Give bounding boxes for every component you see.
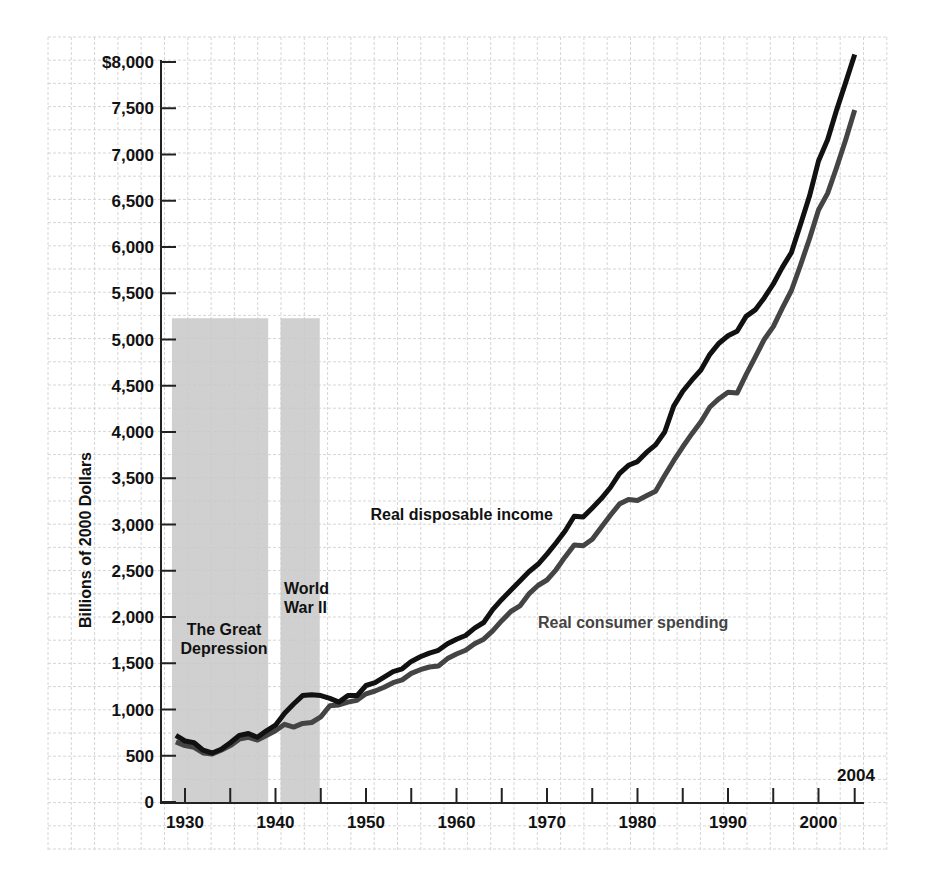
great-depression-band — [172, 318, 268, 802]
data-lines — [176, 55, 855, 754]
x-tick-label: 1980 — [619, 813, 657, 832]
world-war-ii-label: War II — [284, 599, 327, 616]
great-depression-label: Depression — [180, 640, 267, 657]
y-tick-label: 1,000 — [111, 701, 154, 720]
y-tick-label: 1,500 — [111, 654, 154, 673]
y-tick-label: 3,000 — [111, 516, 154, 535]
x-tick-label: 1970 — [528, 813, 566, 832]
x-tick-label: 1940 — [257, 813, 295, 832]
y-tick-label: 5,500 — [111, 284, 154, 303]
world-war-ii-label: World — [284, 580, 329, 597]
shaded-periods — [172, 318, 320, 802]
x-tick-label: 1950 — [347, 813, 385, 832]
y-tick-label: 6,000 — [111, 238, 154, 257]
real-disposable-income-label: Real disposable income — [371, 506, 553, 523]
y-tick-label: 500 — [126, 747, 154, 766]
x-tick-label: 1930 — [166, 813, 204, 832]
chart: 05001,0001,5002,0002,5003,0003,5004,0004… — [0, 0, 933, 890]
world-war-ii-band — [281, 318, 320, 802]
great-depression-label: The Great — [187, 621, 262, 638]
y-tick-label: 4,500 — [111, 377, 154, 396]
y-tick-label: 5,000 — [111, 331, 154, 350]
end-year-label: 2004 — [837, 766, 875, 785]
y-axis-title: Billions of 2000 Dollars — [77, 452, 94, 628]
real-consumer-spending-label: Real consumer spending — [538, 614, 728, 631]
y-tick-label: 2,000 — [111, 608, 154, 627]
x-tick-label: 1960 — [438, 813, 476, 832]
x-tick-label: 1990 — [709, 813, 747, 832]
y-tick-label: 4,000 — [111, 423, 154, 442]
y-tick-label: 2,500 — [111, 562, 154, 581]
y-tick-label: 0 — [145, 793, 154, 812]
y-tick-label: 7,000 — [111, 146, 154, 165]
y-tick-label: 3,500 — [111, 469, 154, 488]
y-tick-label: 7,500 — [111, 99, 154, 118]
x-tick-label: 2000 — [800, 813, 838, 832]
y-tick-label: $8,000 — [102, 53, 154, 72]
real-disposable-income-line — [176, 55, 855, 753]
y-tick-label: 6,500 — [111, 192, 154, 211]
real-consumer-spending-line — [176, 110, 855, 754]
